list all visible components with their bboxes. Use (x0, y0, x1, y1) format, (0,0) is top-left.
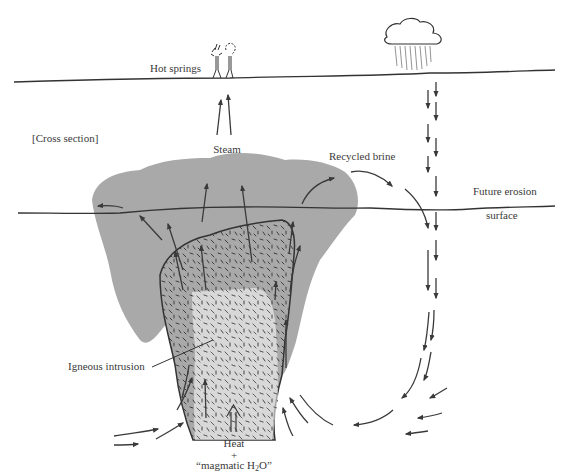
surface-label: surface (486, 210, 518, 221)
geyser-icon (211, 43, 235, 78)
recycled-brine-label: Recycled brine (329, 151, 395, 162)
magmatic-water-label: “magmatic H2O” (196, 460, 272, 473)
future-erosion-label: Future erosion (473, 186, 537, 197)
heat-label: Heat (224, 438, 245, 449)
steam-label: Steam (213, 144, 241, 155)
ground-surface (14, 70, 555, 82)
igneous-intrusion-label: Igneous intrusion (68, 361, 145, 372)
meteoric-downflow (354, 82, 447, 434)
rain-cloud-icon (385, 18, 441, 70)
cross-section-label: [Cross section] (32, 133, 98, 144)
magmatic-water-suffix: O” (259, 459, 272, 471)
hot-springs-label: Hot springs (150, 63, 201, 74)
steam-arrows (217, 95, 231, 135)
magmatic-water-prefix: “magmatic H (196, 459, 255, 471)
